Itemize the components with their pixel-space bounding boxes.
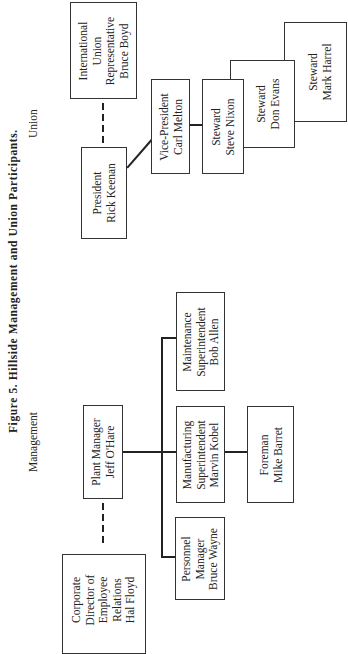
node-plant-manager: Plant Manager Jeff O'Hare [83, 405, 123, 499]
node-line: Corporate [70, 575, 84, 626]
figure-title: Figure 5. Hillside Management and Union … [7, 129, 19, 433]
connector-trunk-vertical [161, 337, 163, 558]
node-line: Director of [84, 575, 98, 626]
node-line: Vice-President [157, 93, 171, 161]
node-line: President [91, 163, 105, 223]
node-president: President Rick Keenan [81, 147, 127, 239]
node-line: Steward [307, 43, 321, 100]
node-line: Carl Melton [171, 93, 185, 161]
node-international-union-rep: International Union Representative Bruce… [70, 2, 137, 99]
node-line: Foreman [257, 427, 271, 483]
node-line: Representative [104, 16, 118, 84]
node-line: Mike Barret [271, 427, 285, 483]
node-line: Employee [97, 575, 111, 626]
dashed-connector-plant-manager-corporate [102, 503, 104, 547]
section-label-management: Management [27, 412, 39, 472]
node-line: Superintendent [194, 307, 208, 377]
connector-trunk-personnel [161, 556, 175, 558]
node-line: Don Evans [268, 79, 282, 130]
connector-vp-steward [190, 124, 202, 126]
node-personnel-manager: Personnel Manager Bruce Wayne [175, 517, 225, 600]
node-vice-president: Vice-President Carl Melton [151, 79, 190, 174]
node-line: Rick Keenan [104, 163, 118, 223]
node-line: Steward [254, 79, 268, 130]
node-line: Personnel [180, 528, 194, 590]
node-manufacturing-superintendent: Manufacturing Superintendent Marvin Kobe… [176, 406, 225, 503]
node-line: Bruce Boyd [117, 16, 131, 84]
connector-manufacturing-foreman [225, 451, 247, 453]
node-line: Hal Floyd [124, 575, 138, 626]
node-line: Manager [193, 528, 207, 590]
connector-plant-manager-trunk [123, 451, 176, 453]
node-foreman: Foreman Mike Barret [247, 406, 294, 503]
node-line: Mark Harrel [320, 43, 334, 100]
node-line: Plant Manager [90, 418, 104, 485]
node-line: Marvin Kobel [207, 420, 221, 490]
node-maintenance-superintendent: Maintenance Superintendent Bob Allen [176, 292, 225, 391]
node-line: Superintendent [194, 420, 208, 490]
node-line: Manufacturing [180, 420, 194, 490]
node-line: Steve Nixon [223, 98, 237, 155]
node-line: International [77, 16, 91, 84]
connector-trunk-maintenance [161, 337, 176, 339]
node-line: Jeff O'Hare [103, 418, 117, 485]
node-corporate-director: Corporate Director of Employee Relations… [62, 554, 146, 654]
node-line: Bruce Wayne [207, 528, 221, 590]
section-label-union: Union [27, 109, 39, 138]
node-steward-steve-nixon: Steward Steve Nixon [202, 79, 244, 174]
node-line: Maintenance [180, 307, 194, 377]
node-line: Union [90, 16, 104, 84]
node-line: Steward [210, 98, 224, 155]
dashed-connector-president-intl [102, 103, 104, 144]
connector-president-vp [126, 139, 152, 169]
node-line: Bob Allen [207, 307, 221, 377]
node-line: Relations [111, 575, 125, 626]
